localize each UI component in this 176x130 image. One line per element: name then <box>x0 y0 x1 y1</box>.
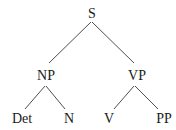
node-vp: VP <box>128 68 146 83</box>
syntax-tree: S NP VP Det N V PP <box>0 0 176 130</box>
edge-vp-pp <box>135 86 158 109</box>
node-n: N <box>64 111 74 126</box>
edge-np-n <box>46 86 65 109</box>
tree-edges <box>25 22 158 109</box>
edge-vp-v <box>114 86 134 109</box>
node-s: S <box>88 6 96 21</box>
edge-np-det <box>25 86 45 109</box>
node-pp: PP <box>156 111 172 126</box>
node-v: V <box>104 111 114 126</box>
node-det: Det <box>12 111 32 126</box>
edge-s-np <box>49 22 91 63</box>
tree-nodes: S NP VP Det N V PP <box>12 6 172 126</box>
edge-s-vp <box>92 22 134 63</box>
node-np: NP <box>37 68 55 83</box>
